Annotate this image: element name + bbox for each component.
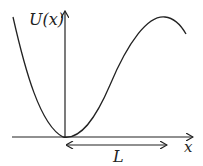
- y-axis-label: U(x): [29, 10, 64, 29]
- potential-energy-diagram: U(x) x L: [0, 0, 203, 166]
- x-axis-label: x: [184, 138, 193, 156]
- potential-curve: [13, 17, 186, 137]
- distance-label: L: [112, 147, 124, 166]
